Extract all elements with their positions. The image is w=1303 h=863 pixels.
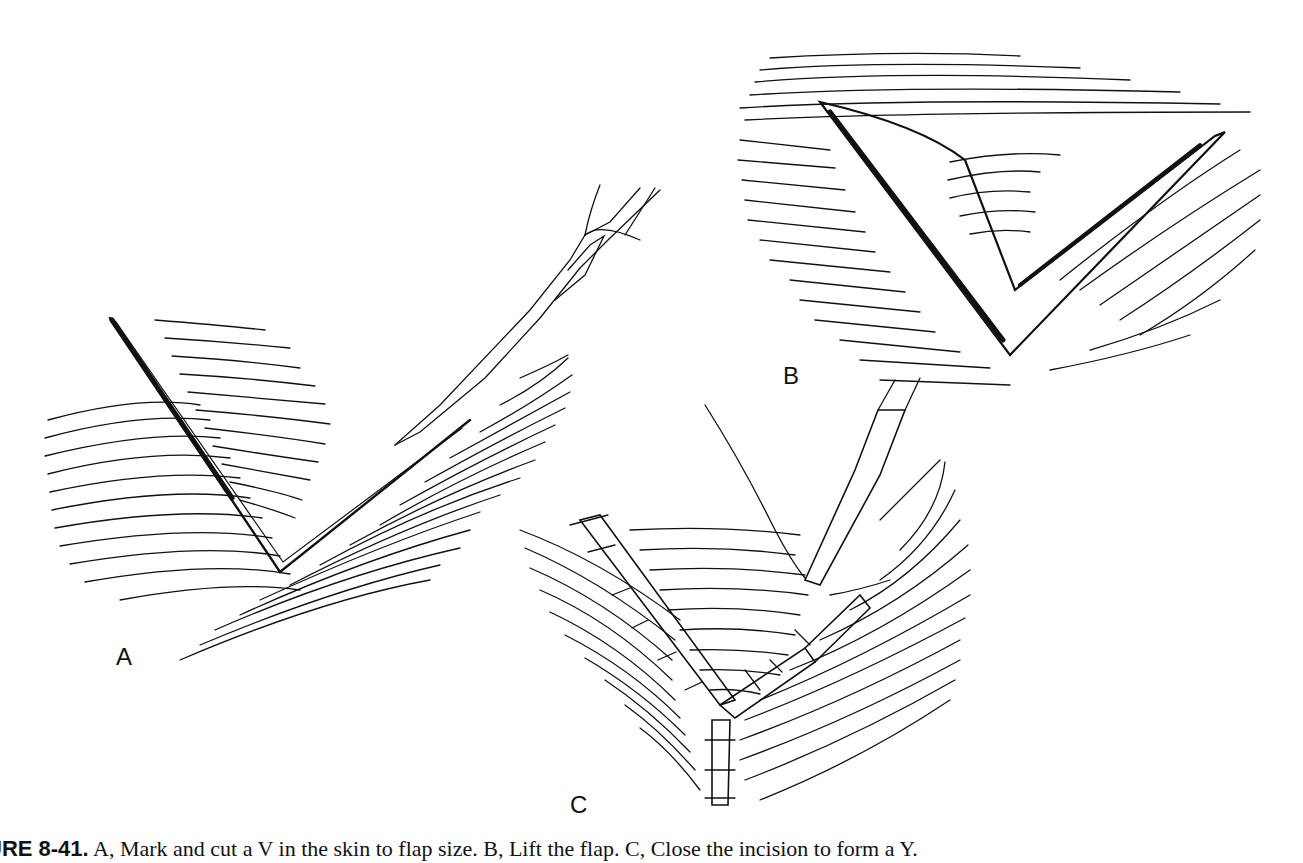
figure-number: URE 8-41.	[0, 836, 89, 861]
panel-label-a: A	[116, 643, 132, 671]
panel-label-b: B	[783, 362, 799, 390]
panel-a-drawing	[45, 185, 660, 660]
panel-b-drawing	[738, 53, 1260, 385]
panel-c-drawing	[520, 378, 970, 805]
caption-text: A, Mark and cut a V in the skin to flap …	[93, 836, 918, 861]
figure-caption: URE 8-41. A, Mark and cut a V in the ski…	[0, 836, 918, 862]
panel-label-c: C	[570, 791, 587, 819]
